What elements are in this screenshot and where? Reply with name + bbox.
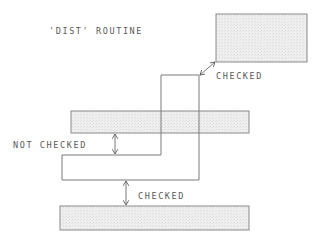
lower-bar xyxy=(60,206,249,230)
upper-bar xyxy=(71,111,249,133)
top-checked-arrow-icon xyxy=(200,62,215,75)
top-checked-label: CHECKED xyxy=(216,71,263,81)
top-box xyxy=(216,14,307,62)
diagram-title: 'DIST' ROUTINE xyxy=(49,26,143,36)
not-checked-label: NOT CHECKED xyxy=(13,140,87,150)
dist-routine-diagram: 'DIST' ROUTINE CHECKED NOT CHECKED CHECK… xyxy=(0,0,320,241)
bottom-checked-label: CHECKED xyxy=(138,191,185,201)
